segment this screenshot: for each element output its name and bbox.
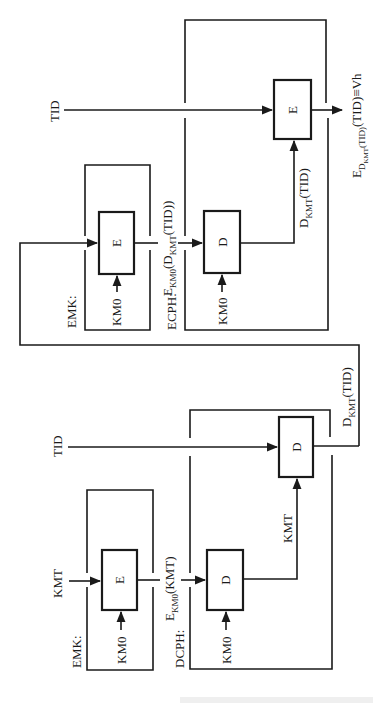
dcph-label: DCPH: <box>172 630 187 668</box>
upper-emk-label: EMK: <box>64 296 79 329</box>
ecph-e-label: E <box>285 106 300 114</box>
ecph-d-label: D <box>215 237 230 246</box>
lower-tid-label: TID <box>50 435 65 457</box>
upper-mid-label: EKM0(DKMT(TID)) <box>160 201 178 296</box>
output-vh-label: EDKMT(TID)(TID)≡Vh <box>349 73 370 178</box>
upper-km0-label-2: KM0 <box>215 298 230 325</box>
kmt-input-label: KMT <box>50 569 65 598</box>
lower-kmt-mid-label: KMT <box>280 514 295 543</box>
lower-emk-e-label: E <box>112 576 127 584</box>
cryptographic-flow-diagram: E KM0 EMK: EKM0(DKMT(TID)) ECPH: D KM0 D… <box>0 0 373 703</box>
dcph-d-label: D <box>218 575 233 584</box>
lower-emk-label: EMK: <box>69 636 84 669</box>
lower-dkmt-label: DKMT(TID) <box>339 367 357 427</box>
page-edge-strip <box>180 697 373 703</box>
lower-km0-label-1: KM0 <box>114 637 129 664</box>
upper-km0-label-1: KM0 <box>109 299 124 326</box>
upper-dkmt-label: DKMT(TID) <box>296 168 314 228</box>
dcph-d2-label: D <box>289 442 304 451</box>
upper-emk-e-label: E <box>109 239 124 247</box>
lower-section: KMT E KM0 EMK: EKM0(KMT) DCPH: D KM0 KMT… <box>50 367 359 670</box>
lower-km0-label-2: KM0 <box>219 637 234 664</box>
lower-mid-label: EKM0(KMT) <box>162 556 180 621</box>
ecph-label: ECPH: <box>164 293 179 330</box>
upper-tid-label: TID <box>47 100 62 122</box>
upper-section: E KM0 EMK: EKM0(DKMT(TID)) ECPH: D KM0 D… <box>20 20 370 446</box>
